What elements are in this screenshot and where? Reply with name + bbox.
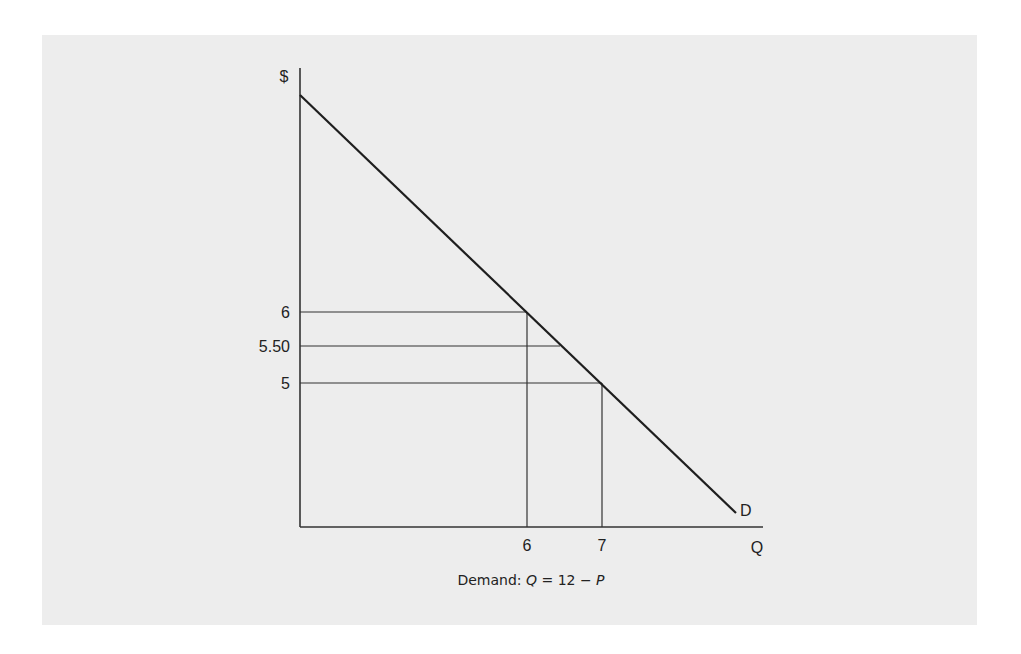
y-tick-5-50: 5.50 <box>259 338 290 355</box>
curve-label-d: D <box>740 502 752 519</box>
y-tick-5: 5 <box>281 375 290 392</box>
demand-chart: $ 6 5.50 5 6 7 Q D Demand: Q = 12 − P <box>0 0 1021 654</box>
y-tick-6: 6 <box>281 304 290 321</box>
chart-caption: Demand: Q = 12 − P <box>457 572 605 588</box>
x-axis-label: Q <box>751 539 763 556</box>
y-axis-label: $ <box>280 68 289 85</box>
x-tick-7: 7 <box>598 537 607 554</box>
x-tick-6: 6 <box>523 537 532 554</box>
demand-curve <box>300 95 736 513</box>
